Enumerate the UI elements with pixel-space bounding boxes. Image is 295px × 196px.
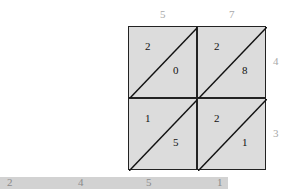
cell-tens-digit: 2 [214,112,220,124]
cell-ones-digit: 0 [173,64,179,76]
cell-tens-digit: 2 [145,40,151,52]
multiplier-digit: 3 [273,127,279,139]
diagonal-line-icon [129,27,198,99]
cell-ones-digit: 5 [173,136,179,148]
lattice-cell: 2 8 [197,26,266,98]
result-digit: 5 [146,176,152,188]
result-digit: 1 [217,176,223,188]
multiplicand-digit: 5 [160,8,166,20]
multiplier-digit: 4 [273,55,279,67]
diagonal-line-icon [129,99,198,171]
cell-tens-digit: 1 [145,112,151,124]
lattice-cell: 2 1 [197,98,266,170]
lattice-cell: 1 5 [128,98,197,170]
cell-ones-digit: 8 [242,64,248,76]
result-digit: 2 [7,176,13,188]
diagonal-line-icon [198,99,267,171]
multiplicand-digit: 7 [229,8,235,20]
lattice-cell: 2 0 [128,26,197,98]
cell-ones-digit: 1 [242,136,248,148]
cell-tens-digit: 2 [214,40,220,52]
result-digit: 4 [78,176,84,188]
diagonal-line-icon [198,27,267,99]
result-bar: 2 4 5 1 [0,177,228,189]
lattice-grid: 2 0 2 8 1 5 2 1 [128,26,266,170]
